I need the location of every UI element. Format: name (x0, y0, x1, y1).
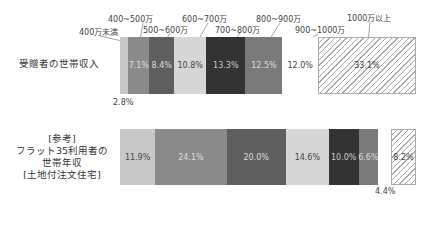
segment-700-800: 13.3% (206, 37, 245, 94)
value-label: 14.6% (295, 153, 320, 162)
value-label: 24.1% (178, 153, 203, 162)
value-label: 12.5% (251, 61, 276, 70)
value-label: 8.2% (393, 153, 413, 162)
segment-600-700: 14.6% (286, 129, 329, 185)
value-label: 8.4% (152, 61, 172, 70)
segment-700-800: 10.0% (329, 129, 359, 185)
value-label: 13.3% (213, 61, 238, 70)
segment-1000-plus: 8.2% (391, 129, 416, 185)
segment-600-700: 10.8% (174, 37, 206, 94)
segment-900-1000: 12.0% (282, 37, 318, 94)
bar-flat35-income: 11.9% 24.1% 20.0% 14.6% 10.0% 6.6% 8.2% (120, 129, 416, 185)
bar-recipient-income: 7.1% 8.4% 10.8% 13.3% 12.5% 12.0% 33.1% (120, 37, 416, 94)
segment-1000-plus: 33.1% (318, 37, 416, 94)
row-label-flat35-reference: [参考] フラット35利用者の 世帯年収 [土地付注文住宅] (14, 133, 110, 181)
value-label: 10.8% (177, 61, 202, 70)
segment-500-600: 20.0% (227, 129, 286, 185)
value-label: 7.1% (129, 61, 149, 70)
segment-under-400: 11.9% (120, 129, 155, 185)
segment-500-600: 8.4% (149, 37, 174, 94)
segment-400-500: 24.1% (155, 129, 226, 185)
segment-900-1000 (378, 129, 391, 185)
segment-800-900: 12.5% (245, 37, 282, 94)
value-label: 20.0% (243, 153, 268, 162)
segment-under-400 (120, 37, 128, 94)
value-label: 12.0% (288, 61, 313, 70)
value-label: 6.6% (358, 153, 378, 162)
row-label-recipient-income: 受贈者の世帯収入 (14, 58, 104, 70)
value-label-900-1000: 4.4% (375, 187, 395, 196)
value-label-under-400: 2.8% (113, 98, 133, 107)
value-label: 11.9% (125, 153, 150, 162)
segment-800-900: 6.6% (359, 129, 379, 185)
segment-400-500: 7.1% (128, 37, 149, 94)
value-label: 33.1% (354, 61, 379, 70)
value-label: 10.0% (331, 153, 356, 162)
